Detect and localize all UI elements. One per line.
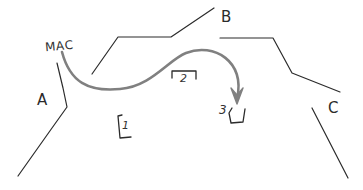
label-mac: MAC xyxy=(45,39,74,53)
canvas-background xyxy=(0,0,363,190)
label-marker-2: 2 xyxy=(180,73,187,84)
hand-drawn-sketch xyxy=(0,0,363,190)
diagram-canvas: MAC A B C 1 2 3 xyxy=(0,0,363,190)
label-region-c: C xyxy=(328,101,339,116)
label-marker-3: 3 xyxy=(219,104,227,116)
label-region-b: B xyxy=(221,10,232,25)
label-region-a: A xyxy=(37,93,48,108)
label-marker-1: 1 xyxy=(122,120,129,131)
